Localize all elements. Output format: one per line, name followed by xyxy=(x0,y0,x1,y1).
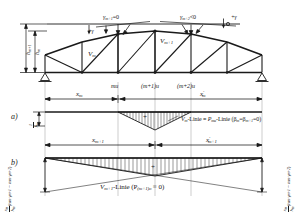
panel-a-tag: a) xyxy=(11,113,17,121)
gamma-plus-left-label: +γ xyxy=(88,29,94,35)
height-label-m: hm xyxy=(34,49,41,55)
panel-a-caption: Vm-Linie ≡ Pmu-Linie (βm=βm+1=0) xyxy=(181,116,261,123)
node-label-m1u: (m+1)u xyxy=(141,83,159,89)
panel-a-ordinate-label: 1 hm xyxy=(28,122,40,128)
diagonal-label-Vm: Vm xyxy=(88,51,96,59)
panel-a-plus-sign: + xyxy=(143,114,147,121)
dim-label-xm-prime: x'm xyxy=(200,91,205,99)
gamma-plus-right-label: +γ xyxy=(231,15,237,21)
gamma-m1-label: γm+1=0 xyxy=(103,14,119,21)
panel-b-caption: Vm+1-Linie (P(m+1)o ≡ 0) xyxy=(100,184,164,192)
diagonal-label-Vm1: Vm+1 xyxy=(160,38,173,46)
dim-label-xm1: xm+1 xyxy=(92,137,104,145)
node-label-mu: mu xyxy=(111,83,118,89)
panel-b-plus-sign: + xyxy=(151,164,155,171)
panel-b-right-formula: xm hm (tan γm+1 − tan γm+2) xyxy=(282,167,295,212)
gamma-m2-label: γm+2<0 xyxy=(180,14,196,21)
dim-label-xm1-prime: x'm+1 xyxy=(206,137,217,145)
node-label-m2u: (m+2)u xyxy=(177,83,195,89)
dim-label-xm: xm xyxy=(76,91,82,99)
panel-b-left-formula: xm hm (tan γm+1 − tan γm+2) xyxy=(3,167,16,212)
height-label-m-plus-1: hm+1 xyxy=(25,45,32,55)
